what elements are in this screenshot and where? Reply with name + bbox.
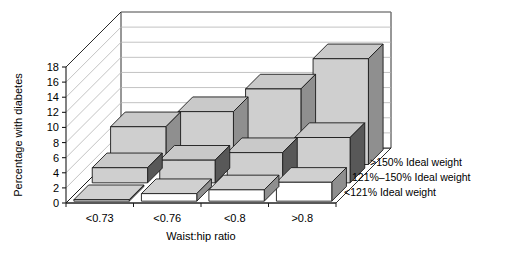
gridline-leftwall-12 xyxy=(66,57,121,112)
y-tick-label-18: 18 xyxy=(47,61,59,73)
gridline-leftwall-10 xyxy=(66,72,121,127)
y-tick-label-2: 2 xyxy=(53,182,59,194)
wall-top-left-edge xyxy=(66,12,121,67)
legend-label-1: 121%–150% Ideal weight xyxy=(352,171,471,183)
x-tick-label-2: <0.8 xyxy=(224,212,246,224)
bar-side-2-3 xyxy=(368,44,383,164)
chart-container: 024681012141618Percentage with diabetes<… xyxy=(0,0,506,253)
bar-front-0-2 xyxy=(209,190,264,201)
x-tick-label-3: >0.8 xyxy=(291,212,313,224)
legend-label-0: >150% Ideal weight xyxy=(370,156,462,168)
x-axis-title: Waist:hip ratio xyxy=(166,230,235,242)
y-tick-label-4: 4 xyxy=(53,167,59,179)
y-tick-label-8: 8 xyxy=(53,137,59,149)
legend-label-2: <121% Ideal weight xyxy=(344,186,436,198)
y-tick-label-0: 0 xyxy=(53,197,59,209)
y-tick-label-6: 6 xyxy=(53,152,59,164)
gridline-leftwall-16 xyxy=(66,27,121,82)
y-tick-label-10: 10 xyxy=(47,121,59,133)
y-tick-label-16: 16 xyxy=(47,76,59,88)
bar-front-0-1 xyxy=(141,194,196,202)
y-axis-title: Percentage with diabetes xyxy=(12,73,24,197)
y-tick-label-12: 12 xyxy=(47,106,59,118)
bar-front-0-0 xyxy=(74,200,129,202)
y-tick-label-14: 14 xyxy=(47,91,59,103)
bar-front-1-0 xyxy=(92,168,147,183)
diabetes-waist-hip-3d-bar-chart: 024681012141618Percentage with diabetes<… xyxy=(0,0,506,253)
x-tick-label-1: <0.76 xyxy=(153,212,181,224)
x-tick-label-0: <0.73 xyxy=(86,212,114,224)
gridline-leftwall-14 xyxy=(66,42,121,97)
bar-front-0-3 xyxy=(276,182,331,201)
